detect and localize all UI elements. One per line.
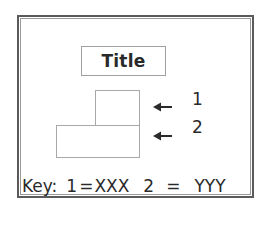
block-1 (95, 90, 140, 126)
key-entry-2-equals: = (166, 176, 180, 196)
key-legend: Key: 1 = XXX 2 = YYY (22, 176, 250, 196)
key-entry-1-number: 1 (66, 176, 77, 196)
key-entry-1-equals: = (79, 176, 93, 196)
key-entry-2-value: YYY (194, 176, 225, 196)
arrow-left-icon (153, 131, 173, 141)
title-box: Title (81, 46, 166, 76)
title-text: Title (102, 51, 146, 71)
key-entry-1-value: XXX (94, 176, 129, 196)
key-entry-2-number: 2 (143, 176, 154, 196)
arrow-left-icon (153, 102, 173, 112)
key-label: Key: (22, 176, 57, 196)
block-2-label: 2 (192, 119, 203, 136)
block-2 (56, 125, 140, 158)
block-1-label: 1 (192, 91, 203, 108)
